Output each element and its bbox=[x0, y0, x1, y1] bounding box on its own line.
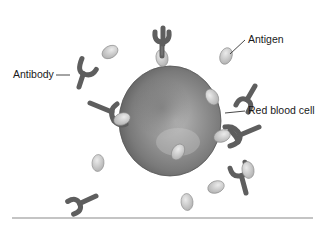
diagram-canvas: Antibody Antigen Red blood cell bbox=[0, 0, 327, 227]
antigen-leader bbox=[230, 40, 245, 54]
red-blood-cell-leader bbox=[225, 111, 245, 113]
red-blood-cell bbox=[119, 66, 221, 176]
antibody-free-bottom-left bbox=[68, 190, 99, 215]
red-blood-cell-label: Red blood cell bbox=[248, 105, 315, 116]
antibody-free-left bbox=[73, 58, 98, 90]
antibody-label: Antibody bbox=[13, 69, 54, 80]
antigen-label: Antigen bbox=[248, 34, 284, 45]
